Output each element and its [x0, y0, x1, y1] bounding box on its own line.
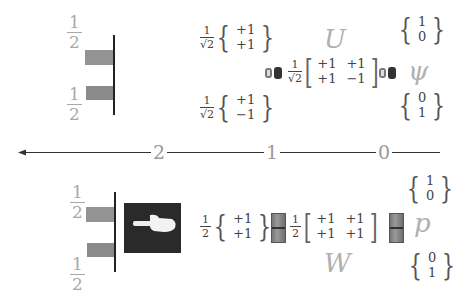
speaker-icon	[378, 66, 398, 80]
operator-label-u: U	[324, 24, 346, 54]
bottom-bar-axis	[114, 192, 116, 272]
top-prob-label-2: 1 2	[67, 86, 82, 123]
state-label-p: p	[414, 208, 431, 238]
speaker-icon	[264, 66, 284, 80]
top-bar-axis	[113, 35, 115, 115]
basis-vector-up: { 1 0 }	[396, 14, 448, 44]
switch-icon	[389, 213, 404, 243]
switch-icon	[271, 213, 286, 243]
pointing-hand-icon	[124, 203, 181, 253]
top-probability-bar-1	[85, 50, 114, 65]
operator-matrix-u: 1 √2 [ +1 +1 +1 −1 ]	[288, 54, 381, 88]
axis-tick-2: 2	[151, 143, 167, 162]
axis-tick-1: 1	[264, 143, 280, 162]
arrow-left-icon	[18, 149, 26, 156]
axis-tick-0: 0	[376, 143, 392, 162]
basis-vector-up: { 1 0 }	[404, 173, 456, 203]
state-minus-vector: 1 √2 { +1 −1 }	[200, 92, 277, 122]
basis-vector-down: { 0 1 }	[406, 250, 458, 280]
operator-matrix-w: 1 2 [ +1 +1 +1 +1 ]	[290, 209, 380, 243]
operator-label-w: W	[324, 248, 351, 278]
bottom-probability-bar-1	[86, 207, 115, 222]
bottom-prob-label-1: 1 2	[70, 184, 85, 221]
basis-vector-down: { 0 1 }	[396, 90, 448, 120]
state-label-psi: ψ	[408, 56, 428, 86]
top-probability-bar-2	[86, 86, 114, 100]
bottom-prob-label-2: 1 2	[70, 256, 85, 293]
uniform-state-vector: 1 2 { +1 +1 }	[200, 211, 274, 241]
top-prob-label-1: 1 2	[67, 14, 82, 51]
pointer-box	[124, 203, 181, 253]
bottom-probability-bar-2	[87, 243, 115, 257]
state-plus-vector: 1 √2 { +1 +1 }	[200, 22, 277, 52]
